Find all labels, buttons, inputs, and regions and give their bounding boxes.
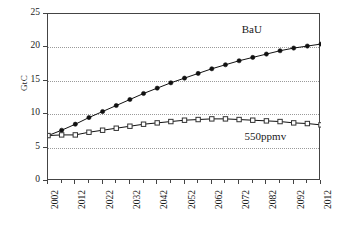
data-point-bau bbox=[155, 86, 159, 90]
data-point-550ppmv bbox=[223, 117, 227, 121]
data-point-550ppmv bbox=[182, 118, 186, 122]
x-axis-tick-label: 2032 bbox=[133, 190, 143, 209]
data-point-bau bbox=[237, 59, 241, 63]
data-point-bau bbox=[264, 52, 268, 56]
data-point-550ppmv bbox=[128, 124, 132, 128]
y-axis-tick-label: 15 bbox=[18, 75, 40, 85]
data-point-bau bbox=[128, 97, 132, 101]
data-point-bau bbox=[182, 76, 186, 80]
y-axis-tick-label: 0 bbox=[18, 175, 40, 185]
data-point-550ppmv bbox=[169, 119, 173, 123]
data-point-550ppmv bbox=[114, 126, 118, 130]
data-point-550ppmv bbox=[141, 122, 145, 126]
x-axis-tick-label: 2072 bbox=[242, 190, 252, 209]
plot-area bbox=[47, 13, 320, 180]
x-axis-tick-label: 2002 bbox=[51, 190, 61, 209]
x-axis-tick-label: 2092 bbox=[297, 190, 307, 209]
data-point-bau bbox=[114, 103, 118, 107]
data-point-bau bbox=[223, 63, 227, 67]
y-axis-tick-label: 20 bbox=[18, 41, 40, 51]
x-axis-tick-label: 2012 bbox=[324, 190, 334, 209]
y-axis-tick-label: 10 bbox=[18, 108, 40, 118]
data-point-550ppmv bbox=[319, 123, 321, 127]
data-point-550ppmv bbox=[237, 117, 241, 121]
data-point-bau bbox=[141, 91, 145, 95]
data-point-550ppmv bbox=[210, 117, 214, 121]
data-point-bau bbox=[305, 44, 309, 48]
data-point-550ppmv bbox=[292, 121, 296, 125]
data-point-bau bbox=[60, 128, 64, 132]
data-point-bau bbox=[169, 81, 173, 85]
data-point-550ppmv bbox=[196, 117, 200, 121]
data-point-bau bbox=[196, 71, 200, 75]
line-chart: GtC 0510152025 2002201220222032204220522… bbox=[0, 0, 341, 233]
data-point-bau bbox=[292, 46, 296, 50]
series-label-bau: BaU bbox=[242, 23, 262, 35]
x-axis-tick-label: 2042 bbox=[160, 190, 170, 209]
x-axis-tick-label: 2012 bbox=[78, 190, 88, 209]
data-point-550ppmv bbox=[87, 130, 91, 134]
x-axis-tick-label: 2062 bbox=[215, 190, 225, 209]
y-axis-tick-label: 25 bbox=[18, 8, 40, 18]
series-label-550ppmv: 550ppmv bbox=[245, 130, 287, 142]
data-point-bau bbox=[251, 55, 255, 59]
data-point-bau bbox=[210, 67, 214, 71]
data-point-550ppmv bbox=[264, 119, 268, 123]
data-point-550ppmv bbox=[73, 133, 77, 137]
y-axis-tick-label: 5 bbox=[18, 142, 40, 152]
data-point-bau bbox=[278, 49, 282, 53]
data-point-550ppmv bbox=[48, 133, 50, 137]
data-point-550ppmv bbox=[155, 121, 159, 125]
data-point-550ppmv bbox=[305, 121, 309, 125]
x-axis-tick-label: 2022 bbox=[106, 190, 116, 209]
x-axis-tick-label: 2052 bbox=[188, 190, 198, 209]
data-point-bau bbox=[87, 115, 91, 119]
data-point-550ppmv bbox=[100, 128, 104, 132]
data-point-bau bbox=[73, 122, 77, 126]
data-point-bau bbox=[101, 109, 105, 113]
series-layer bbox=[48, 14, 321, 181]
data-point-550ppmv bbox=[278, 119, 282, 123]
data-point-550ppmv bbox=[59, 133, 63, 137]
data-point-bau bbox=[319, 42, 321, 46]
x-axis-tick-label: 2082 bbox=[269, 190, 279, 209]
data-point-550ppmv bbox=[251, 118, 255, 122]
